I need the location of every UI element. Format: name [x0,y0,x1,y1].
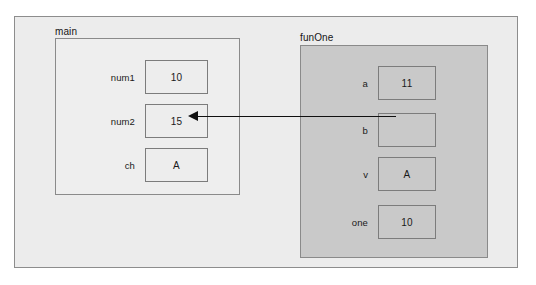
variable-label-a: a [334,78,368,89]
variable-row-ch: ch A [93,148,208,182]
reference-arrow-head-icon [188,111,198,121]
diagram-canvas: main num1 10 num2 15 ch A funOne a 11 b … [0,0,536,285]
variable-row-v: v A [334,157,436,191]
variable-value-ch: A [145,148,208,182]
scope-funone-label: funOne [300,32,333,43]
variable-row-num2: num2 15 [93,104,208,138]
scope-main-label: main [55,26,77,37]
variable-value-one: 10 [378,205,436,239]
variable-row-one: one 10 [326,205,436,239]
variable-label-b: b [334,125,368,136]
variable-label-ch: ch [93,160,135,171]
variable-label-one: one [326,217,368,228]
variable-label-num1: num1 [93,72,135,83]
variable-row-num1: num1 10 [93,60,208,94]
variable-value-b [378,113,436,147]
variable-label-num2: num2 [93,116,135,127]
variable-row-a: a 11 [334,66,436,100]
reference-arrow-line [196,116,396,117]
variable-row-b: b [334,113,436,147]
variable-label-v: v [334,169,368,180]
variable-value-v: A [378,157,436,191]
variable-value-num2: 15 [145,104,208,138]
variable-value-a: 11 [378,66,436,100]
variable-value-num1: 10 [145,60,208,94]
